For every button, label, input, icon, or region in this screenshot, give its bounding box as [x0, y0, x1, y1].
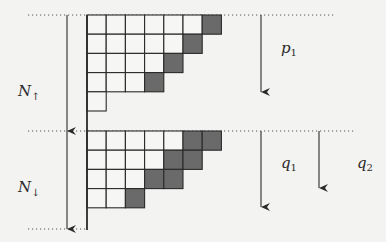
upper-cell-r2-c4-empty	[145, 34, 164, 53]
upper-cell-r1-c2-empty	[106, 15, 125, 34]
lower-cell-r4-c2-empty	[106, 189, 125, 208]
upper-cell-r1-c6-empty	[183, 15, 202, 34]
upper-cell-r4-c4-filled	[145, 73, 164, 92]
lower-cell-r3-c5-filled	[164, 169, 183, 188]
lower-cell-r2-c2-empty	[106, 150, 125, 169]
lower-cell-r3-c4-filled	[145, 169, 164, 188]
lower-cell-r1-c2-empty	[106, 131, 125, 150]
upper-cell-r3-c4-empty	[145, 53, 164, 72]
lower-cell-r1-c6-filled	[183, 131, 202, 150]
upper-grid	[87, 15, 221, 111]
lower-cell-r3-c3-empty	[125, 169, 144, 188]
lower-cell-r4-c3-filled	[125, 189, 144, 208]
upper-cell-r2-c2-empty	[106, 34, 125, 53]
lower-cell-r1-c1-empty	[87, 131, 106, 150]
lower-cell-r1-c5-empty	[164, 131, 183, 150]
p1-label: p1	[281, 39, 297, 58]
lower-cell-r2-c4-empty	[145, 150, 164, 169]
n-up-label: N↑	[17, 82, 40, 102]
q2-label: q2	[357, 154, 373, 173]
upper-cell-r1-c3-empty	[125, 15, 144, 34]
upper-cell-r2-c6-filled	[183, 34, 202, 53]
upper-cell-r1-c4-empty	[145, 15, 164, 34]
lower-cell-r1-c3-empty	[125, 131, 144, 150]
lower-cell-r2-c6-filled	[183, 150, 202, 169]
upper-cell-r4-c1-empty	[87, 73, 106, 92]
upper-cell-r4-c2-empty	[106, 73, 125, 92]
upper-cell-r1-c1-empty	[87, 15, 106, 34]
n-down-label: N↓	[17, 178, 40, 198]
lower-grid	[87, 131, 221, 208]
upper-cell-r3-c3-empty	[125, 53, 144, 72]
lower-cell-r2-c3-empty	[125, 150, 144, 169]
lower-cell-r2-c1-empty	[87, 150, 106, 169]
upper-cell-r1-c7-filled	[202, 15, 221, 34]
upper-cell-r2-c5-empty	[164, 34, 183, 53]
lower-cell-r3-c2-empty	[106, 169, 125, 188]
upper-cell-r5-c1-empty	[87, 92, 106, 111]
upper-cell-r1-c5-empty	[164, 15, 183, 34]
upper-cell-r4-c3-empty	[125, 73, 144, 92]
q1-label: q1	[281, 154, 297, 173]
upper-cell-r2-c1-empty	[87, 34, 106, 53]
lower-cell-r2-c5-filled	[164, 150, 183, 169]
lower-cell-r4-c1-empty	[87, 189, 106, 208]
upper-cell-r3-c5-filled	[164, 53, 183, 72]
lower-cell-r1-c4-empty	[145, 131, 164, 150]
upper-cell-r3-c1-empty	[87, 53, 106, 72]
young-diagram-figure: N↑ N↓ p1 q1 q2	[0, 0, 386, 242]
upper-cell-r3-c2-empty	[106, 53, 125, 72]
lower-cell-r3-c1-empty	[87, 169, 106, 188]
lower-cell-r1-c7-filled	[202, 131, 221, 150]
upper-cell-r2-c3-empty	[125, 34, 144, 53]
